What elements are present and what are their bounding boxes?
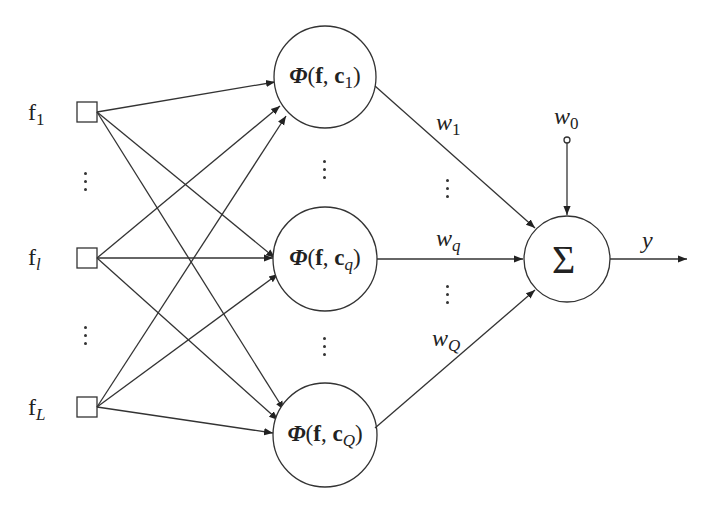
input-label-fL: fL <box>28 395 45 419</box>
input-ellipsis-2 <box>84 326 88 350</box>
input-node-fL <box>77 397 97 417</box>
hidden-ellipsis-1 <box>323 160 327 184</box>
weight-ellipsis-2 <box>446 285 450 309</box>
hidden-node-1-label: Φ(f, c1) <box>275 64 375 87</box>
hidden-ellipsis-2 <box>323 337 327 361</box>
input-to-hidden-connections <box>97 82 286 433</box>
weight-ellipsis-1 <box>446 179 450 203</box>
input-label-f1: f1 <box>28 100 45 124</box>
bias-terminal <box>564 137 570 143</box>
weight-label-wQ: wQ <box>432 326 460 350</box>
input-node-f1 <box>77 102 97 122</box>
hidden-node-q-label: Φ(f, cq) <box>275 246 375 269</box>
output-label-y: y <box>642 228 653 252</box>
sum-symbol: Σ <box>552 240 575 280</box>
input-node-fl <box>77 248 97 268</box>
weight-label-w1: w1 <box>436 110 461 134</box>
bias-label-w0: w0 <box>554 104 579 128</box>
hidden-node-Q-label: Φ(f, cQ) <box>275 422 375 445</box>
input-ellipsis-1 <box>84 172 88 196</box>
input-label-fl: fl <box>28 245 41 269</box>
weight-label-wq: wq <box>436 226 461 250</box>
